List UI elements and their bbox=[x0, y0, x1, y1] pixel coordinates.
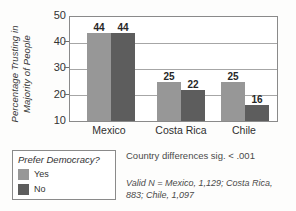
data-label-mexico-yes: 44 bbox=[87, 23, 111, 33]
legend-item-no: No bbox=[18, 183, 110, 196]
plot-area: 44 44 25 22 25 16 bbox=[69, 16, 278, 122]
legend-title: Prefer Democracy? bbox=[18, 154, 110, 166]
data-label-chile-yes: 25 bbox=[221, 72, 245, 82]
y-axis-title-line-2: Majority of People bbox=[21, 15, 33, 133]
valid-n-note: Valid N = Mexico, 1,129; Costa Rica, 883… bbox=[126, 178, 292, 201]
bar-chart-figure: Percentage Trusting in Majority of Peopl… bbox=[0, 0, 296, 211]
x-tick-label-mexico: Mexico bbox=[79, 125, 139, 136]
bar-costarica-yes bbox=[157, 82, 181, 121]
legend-item-yes: Yes bbox=[18, 168, 110, 181]
y-tick-label-20: 20 bbox=[44, 89, 66, 100]
bar-mexico-no bbox=[111, 33, 135, 121]
y-axis-title-line-1: Percentage Trusting in bbox=[9, 15, 21, 133]
data-label-chile-no: 16 bbox=[245, 95, 269, 105]
legend-swatch-no bbox=[18, 184, 29, 195]
x-tick-label-costa-rica: Costa Rica bbox=[148, 125, 214, 136]
y-tick-label-10: 10 bbox=[44, 115, 66, 126]
data-label-mexico-no: 44 bbox=[111, 23, 135, 33]
data-label-costarica-yes: 25 bbox=[157, 72, 181, 82]
y-axis-title: Percentage Trusting in Majority of Peopl… bbox=[9, 15, 33, 133]
x-tick-label-chile: Chile bbox=[214, 125, 274, 136]
legend-swatch-yes bbox=[18, 169, 29, 180]
legend-label-no: No bbox=[34, 184, 46, 195]
bar-chile-no bbox=[245, 105, 269, 121]
y-axis-ticks: 50 40 30 20 10 bbox=[40, 10, 66, 125]
y-tick-label-40: 40 bbox=[44, 36, 66, 47]
chart-legend: Prefer Democracy? Yes No bbox=[12, 150, 116, 200]
bar-chile-yes bbox=[221, 82, 245, 121]
y-tick-label-50: 50 bbox=[44, 10, 66, 21]
y-tick-label-30: 30 bbox=[44, 62, 66, 73]
bar-mexico-yes bbox=[87, 33, 111, 121]
bar-costarica-no bbox=[181, 90, 205, 121]
significance-note: Country differences sig. < .001 bbox=[126, 150, 255, 162]
legend-label-yes: Yes bbox=[34, 169, 49, 180]
data-label-costarica-no: 22 bbox=[181, 80, 205, 90]
